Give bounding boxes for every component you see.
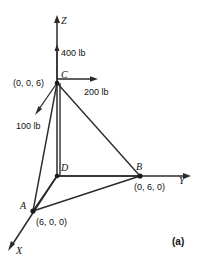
point-D-dot <box>55 174 60 179</box>
edge-C-A <box>33 83 57 211</box>
edge-A-B <box>33 176 140 211</box>
force-400-label: 400 lb <box>61 48 86 58</box>
point-A-label: A <box>19 200 27 211</box>
force-400-vector <box>55 44 60 83</box>
force-200-arrowhead <box>90 76 98 81</box>
force-100-label: 100 lb <box>16 121 41 131</box>
z-axis-arrowhead <box>54 15 60 23</box>
z-axis-label: Z <box>61 15 67 26</box>
tetrahedron-edges <box>33 83 140 211</box>
point-B-label: B <box>136 161 142 172</box>
point-B-dot <box>137 173 142 178</box>
force-100-arrowhead <box>35 106 42 115</box>
force-diagram: Z Y X C (0, 0, 6) B (0, 6, 0) A (6, 0, 0… <box>0 0 204 262</box>
point-A-coord-label: (6, 0, 0) <box>36 217 67 227</box>
force-200-label: 200 lb <box>84 87 109 97</box>
force-400-arrowhead <box>55 44 60 51</box>
point-C-label: C <box>61 69 68 80</box>
x-axis-label: X <box>15 245 23 256</box>
point-C-coord-label: (0, 0, 6) <box>13 78 44 88</box>
part-label: (a) <box>172 236 184 247</box>
point-B-coord-label: (0, 6, 0) <box>134 182 165 192</box>
point-D-label: D <box>60 162 69 173</box>
point-A-dot <box>30 208 35 213</box>
figure-container: Z Y X C (0, 0, 6) B (0, 6, 0) A (6, 0, 0… <box>0 0 204 262</box>
point-C-dot <box>55 81 60 86</box>
